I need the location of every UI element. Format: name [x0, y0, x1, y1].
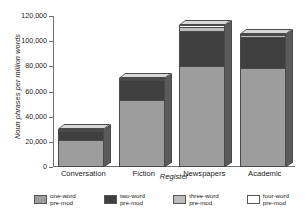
- bar-side-face: [165, 73, 172, 167]
- bar-segment[interactable]: [180, 67, 224, 167]
- y-axis-tick-mark: [49, 142, 53, 143]
- y-axis-tick-label: 60,000: [25, 88, 47, 96]
- y-axis-tick-label: 100,000: [21, 37, 47, 45]
- legend-swatch: [247, 195, 260, 204]
- bar-segment[interactable]: [59, 132, 103, 141]
- y-axis-tick-mark: [49, 16, 53, 17]
- y-axis-tick-label: 80,000: [25, 62, 47, 70]
- legend-swatch: [34, 195, 47, 204]
- y-axis-tick-mark: [49, 92, 53, 93]
- y-axis-tick-mark: [49, 167, 53, 168]
- y-axis-title: Noun phrases per million words: [13, 17, 22, 157]
- legend-label-line1: one-word: [50, 192, 76, 199]
- y-axis-tick-mark: [49, 41, 53, 42]
- y-axis-tick-mark: [49, 66, 53, 67]
- legend-label-line2: pre-mod: [263, 199, 289, 206]
- legend-label-line1: two-word: [120, 192, 145, 199]
- bar-side-face: [286, 29, 293, 167]
- legend-label-line2: pre-mod: [189, 199, 219, 206]
- bar-segment[interactable]: [241, 69, 285, 167]
- plot-area: 020,00040,00060,00080,000100,000120,000 …: [53, 16, 295, 167]
- legend-label-line2: pre-mod: [120, 199, 145, 206]
- bar-front-face[interactable]: [179, 25, 225, 167]
- legend-item[interactable]: one-wordpre-mod: [34, 192, 76, 206]
- bar-top-face: [119, 73, 171, 78]
- bar-front-face[interactable]: [119, 78, 165, 167]
- bar-top-face: [240, 29, 292, 34]
- bar-segment[interactable]: [59, 141, 103, 167]
- bar-front-face[interactable]: [58, 129, 104, 167]
- bar-segment[interactable]: [241, 38, 285, 68]
- legend-item[interactable]: four-wordpre-mod: [247, 192, 289, 206]
- bar-front-face[interactable]: [240, 34, 286, 167]
- bar-side-face: [225, 20, 232, 167]
- y-axis-tick-label: 20,000: [25, 138, 47, 146]
- legend-label: one-wordpre-mod: [50, 192, 76, 206]
- bar-top-face: [179, 20, 231, 25]
- chart-legend: one-wordpre-modtwo-wordpre-modthree-word…: [34, 192, 289, 206]
- y-axis-tick-mark: [49, 117, 53, 118]
- legend-label-line1: four-word: [263, 192, 289, 199]
- legend-item[interactable]: three-wordpre-mod: [173, 192, 219, 206]
- y-axis-tick-label: 40,000: [25, 113, 47, 121]
- legend-label-line2: pre-mod: [50, 199, 76, 206]
- legend-swatch: [104, 195, 117, 204]
- y-axis-tick-label: 120,000: [21, 12, 47, 20]
- bar-side-face: [104, 124, 111, 167]
- legend-label: two-wordpre-mod: [120, 192, 145, 206]
- legend-swatch: [173, 195, 186, 204]
- legend-item[interactable]: two-wordpre-mod: [104, 192, 145, 206]
- y-axis-line: [53, 16, 54, 167]
- bar-segment[interactable]: [120, 81, 164, 101]
- chart-figure: Noun phrases per million words 020,00040…: [0, 0, 305, 218]
- x-axis-title: Register: [53, 172, 295, 181]
- bar-segment[interactable]: [180, 32, 224, 67]
- bar-segment[interactable]: [120, 101, 164, 167]
- legend-label-line1: three-word: [189, 192, 219, 199]
- legend-label: four-wordpre-mod: [263, 192, 289, 206]
- bar-top-face: [58, 124, 110, 129]
- legend-label: three-wordpre-mod: [189, 192, 219, 206]
